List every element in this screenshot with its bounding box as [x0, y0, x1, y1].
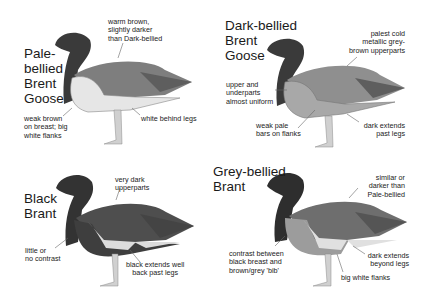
note-rear: dark extends past legs	[355, 122, 405, 139]
note-flanks: big white flanks	[341, 274, 390, 282]
panel-dark-bellied: Dark-bellied Brent Goose palest cold met…	[215, 0, 430, 151]
species-title: Pale- bellied Brent Goose	[24, 46, 64, 106]
note-rear: white behind legs	[141, 115, 197, 123]
goose-illustration-black-brant	[0, 150, 215, 303]
note-rear: dark extends beyond legs	[355, 252, 409, 269]
species-title: Dark-bellied Brent Goose	[225, 18, 297, 63]
note-upperparts: warm brown, slightly darker than Dark-be…	[108, 18, 162, 43]
species-title: Black Brant	[24, 191, 57, 221]
note-upperparts: very dark upperparts	[115, 176, 149, 193]
note-upperparts: palest cold metallic grey- brown upperpa…	[339, 30, 405, 55]
note-contrast: contrast between black breast and brown/…	[229, 250, 284, 275]
panel-black-brant: Black Brant very dark upperparts little …	[0, 150, 215, 301]
note-upperparts: similar or darker than Pale-bellied	[355, 174, 405, 199]
species-title: Grey-bellied Brant	[213, 164, 286, 194]
panel-pale-bellied: Pale- bellied Brent Goose warm brown, sl…	[0, 0, 215, 151]
note-contrast: little or no contrast	[25, 247, 61, 264]
note-breast: weak brown on breast; big white flanks	[24, 115, 68, 140]
note-flanks: weak pale bars on flanks	[256, 122, 301, 139]
note-rear: black extends well back past legs	[126, 261, 184, 278]
note-uniform: upper and underparts almost uniform	[226, 81, 273, 106]
panel-grey-bellied: Grey-bellied Brant similar or darker tha…	[215, 150, 430, 301]
